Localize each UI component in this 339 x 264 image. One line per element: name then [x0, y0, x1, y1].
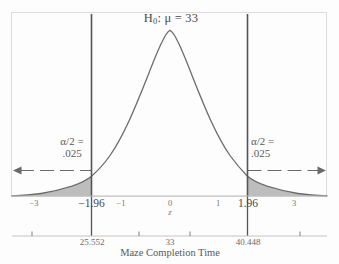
raw-axis-ticks	[32, 232, 300, 237]
title-h-symbol: H	[144, 11, 153, 25]
z-tick-minus1: −1	[109, 199, 133, 208]
alpha-left-line1: α/2 =	[43, 136, 101, 148]
alpha-right-annotation: α/2 = .025	[251, 136, 309, 159]
left-rejection-arrow	[13, 167, 92, 175]
alpha-left-annotation: α/2 = .025	[43, 136, 101, 159]
z-tick-196: 1.96	[228, 197, 268, 209]
left-rejection-shade	[12, 176, 92, 196]
right-rejection-arrow	[248, 167, 327, 175]
right-rejection-shade	[248, 176, 328, 196]
z-tick-one: 1	[206, 199, 230, 208]
z-axis-name: z	[158, 208, 182, 217]
plot-frame	[12, 13, 327, 197]
alpha-right-line1: α/2 =	[251, 136, 309, 148]
z-tick-minus3: −3	[22, 199, 46, 208]
x-axis-title: Maze Completion Time	[100, 247, 240, 258]
z-tick-minus196: −1.96	[69, 197, 114, 209]
normal-distribution-plot	[0, 0, 339, 264]
chart-figure: H0: μ = 33 α/2 = .025 α/2 = .025 −3 −1.9…	[0, 0, 339, 264]
chart-title: H0: μ = 33	[131, 12, 211, 26]
z-tick-three: 3	[282, 199, 306, 208]
alpha-right-line2: .025	[251, 148, 309, 160]
alpha-left-line2: .025	[43, 148, 101, 160]
title-hypothesis-value: : μ = 33	[157, 11, 198, 25]
